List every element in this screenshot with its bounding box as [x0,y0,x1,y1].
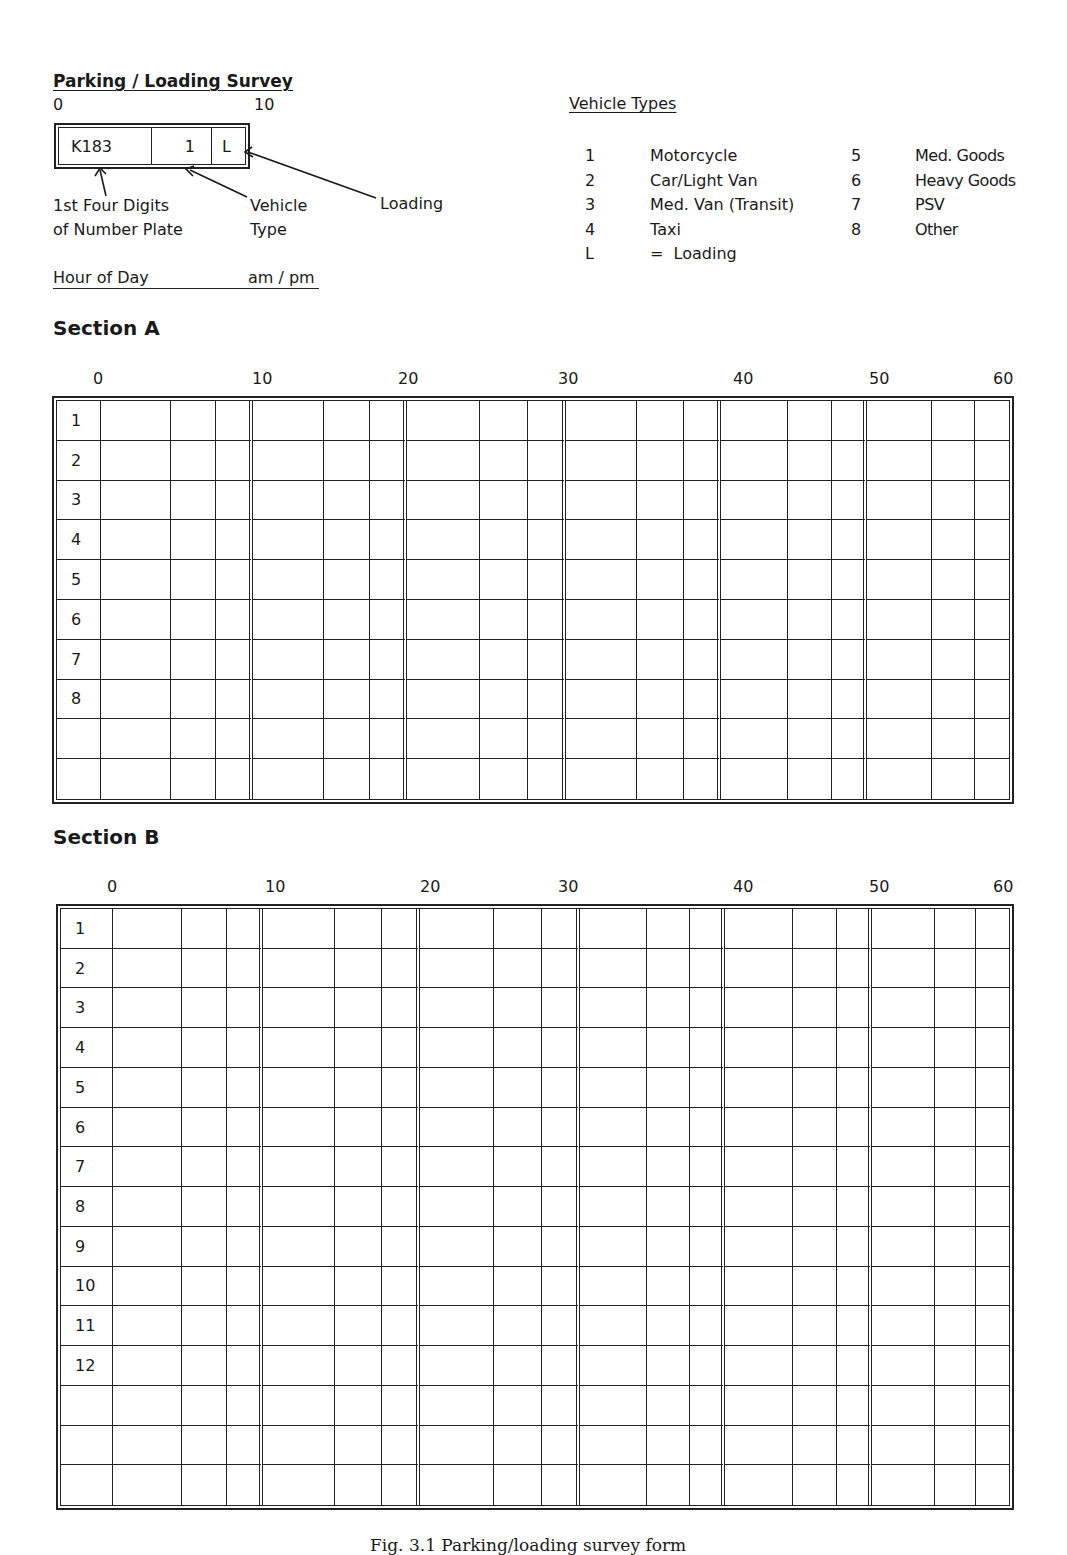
vehicle-type-cell[interactable] [494,909,542,949]
hour-of-day-field[interactable]: Hour of Day am / pm [53,268,319,289]
vehicle-type-cell[interactable] [324,401,370,441]
vehicle-type-cell[interactable] [335,1227,382,1267]
plate-digits-cell[interactable] [566,441,637,481]
vehicle-type-cell[interactable] [935,1306,976,1346]
plate-digits-cell[interactable] [420,1227,494,1267]
loading-cell[interactable] [690,1426,725,1466]
plate-digits-cell[interactable] [113,1227,182,1267]
vehicle-type-cell[interactable] [793,1426,837,1466]
loading-cell[interactable] [227,1346,263,1386]
vehicle-type-cell[interactable] [182,1306,227,1346]
plate-digits-cell[interactable] [101,600,171,640]
loading-cell[interactable] [690,1386,725,1426]
loading-cell[interactable] [837,1068,872,1108]
vehicle-type-cell[interactable] [793,1028,837,1068]
loading-cell[interactable] [976,909,1009,949]
loading-cell[interactable] [837,1346,872,1386]
vehicle-type-cell[interactable] [324,481,370,521]
vehicle-type-cell[interactable] [480,481,528,521]
vehicle-type-cell[interactable] [788,640,832,680]
loading-cell[interactable] [370,481,407,521]
plate-digits-cell[interactable] [721,640,788,680]
vehicle-type-cell[interactable] [932,759,975,799]
plate-digits-cell[interactable] [721,680,788,720]
loading-cell[interactable] [832,640,867,680]
loading-cell[interactable] [227,1187,263,1227]
plate-digits-cell[interactable] [113,1187,182,1227]
loading-cell[interactable] [370,640,407,680]
loading-cell[interactable] [976,1108,1009,1148]
vehicle-type-cell[interactable] [935,1187,976,1227]
loading-cell[interactable] [528,600,566,640]
loading-cell[interactable] [542,1068,580,1108]
vehicle-type-cell[interactable] [932,520,975,560]
loading-cell[interactable] [528,481,566,521]
loading-cell[interactable] [976,1028,1009,1068]
plate-digits-cell[interactable] [263,1346,335,1386]
loading-cell[interactable] [216,520,253,560]
vehicle-type-cell[interactable] [788,680,832,720]
loading-cell[interactable] [976,1267,1009,1307]
plate-digits-cell[interactable] [407,441,480,481]
vehicle-type-cell[interactable] [637,441,684,481]
loading-cell[interactable] [684,640,721,680]
vehicle-type-cell[interactable] [932,680,975,720]
plate-digits-cell[interactable] [872,988,935,1028]
vehicle-type-cell[interactable] [171,640,217,680]
loading-cell[interactable] [975,520,1009,560]
vehicle-type-cell[interactable] [932,600,975,640]
loading-cell[interactable] [976,1187,1009,1227]
plate-digits-cell[interactable] [725,1426,793,1466]
loading-cell[interactable] [382,1028,420,1068]
vehicle-type-cell[interactable] [335,1028,382,1068]
vehicle-type-cell[interactable] [335,1465,382,1505]
loading-cell[interactable] [832,481,867,521]
loading-cell[interactable] [837,1028,872,1068]
loading-cell[interactable] [370,600,407,640]
vehicle-type-cell[interactable] [335,949,382,989]
loading-cell[interactable] [216,759,253,799]
loading-cell[interactable] [382,1187,420,1227]
plate-digits-cell[interactable] [725,1028,793,1068]
plate-digits-cell[interactable] [721,759,788,799]
plate-digits-cell[interactable] [263,1227,335,1267]
plate-digits-cell[interactable] [263,988,335,1028]
loading-cell[interactable] [975,719,1009,759]
loading-cell[interactable] [975,560,1009,600]
plate-digits-cell[interactable] [101,520,171,560]
plate-digits-cell[interactable] [580,1227,647,1267]
vehicle-type-cell[interactable] [335,1187,382,1227]
plate-digits-cell[interactable] [580,1068,647,1108]
vehicle-type-cell[interactable] [171,719,217,759]
vehicle-type-cell[interactable] [182,988,227,1028]
vehicle-type-cell[interactable] [647,1426,691,1466]
vehicle-type-cell[interactable] [182,1267,227,1307]
plate-digits-cell[interactable] [263,1068,335,1108]
loading-cell[interactable] [832,719,867,759]
vehicle-type-cell[interactable] [637,481,684,521]
vehicle-type-cell[interactable] [788,719,832,759]
plate-digits-cell[interactable] [872,1426,935,1466]
loading-cell[interactable] [216,560,253,600]
loading-cell[interactable] [832,560,867,600]
vehicle-type-cell[interactable] [335,1426,382,1466]
plate-digits-cell[interactable] [407,520,480,560]
plate-digits-cell[interactable] [420,1147,494,1187]
plate-digits-cell[interactable] [867,481,932,521]
loading-cell[interactable] [976,1465,1009,1505]
loading-cell[interactable] [837,909,872,949]
plate-digits-cell[interactable] [867,640,932,680]
loading-cell[interactable] [542,1187,580,1227]
loading-cell[interactable] [382,1108,420,1148]
loading-cell[interactable] [684,441,721,481]
vehicle-type-cell[interactable] [637,719,684,759]
vehicle-type-cell[interactable] [494,988,542,1028]
plate-digits-cell[interactable] [407,640,480,680]
loading-cell[interactable] [837,988,872,1028]
vehicle-type-cell[interactable] [494,1028,542,1068]
vehicle-type-cell[interactable] [171,401,217,441]
plate-digits-cell[interactable] [580,1346,647,1386]
vehicle-type-cell[interactable] [335,1386,382,1426]
plate-digits-cell[interactable] [253,759,324,799]
loading-cell[interactable] [837,1465,872,1505]
